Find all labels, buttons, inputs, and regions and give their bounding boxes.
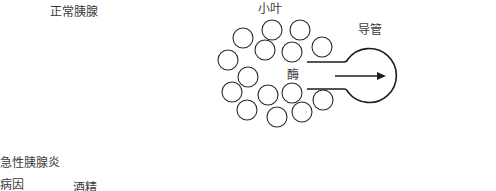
lobule-circle: [258, 85, 278, 105]
lobule-circle: [267, 107, 287, 127]
pancreas-diagram: [0, 0, 496, 191]
arrow-head-icon: [377, 72, 386, 80]
lobule-circle: [282, 42, 302, 62]
lobule-circle: [233, 28, 253, 48]
cause-value: 酒精: [73, 181, 97, 191]
lobule-circle: [218, 50, 238, 70]
duct-label: 导管: [358, 23, 382, 37]
lobule-circle: [237, 100, 257, 120]
acute-pancreatitis-heading: 急性胰腺炎: [0, 156, 60, 170]
lobule-circle: [238, 67, 258, 87]
lobule-circle: [312, 37, 332, 57]
lobule-circle: [290, 20, 310, 40]
lobule-circle: [313, 90, 333, 110]
lobule-circle: [255, 40, 275, 60]
lobule-circle: [282, 83, 302, 103]
lobule-circle: [262, 20, 282, 40]
lobule-circle: [222, 82, 242, 102]
lobule-label: 小叶: [258, 2, 282, 16]
lobule-cluster: [218, 20, 333, 127]
cause-label: 病因: [0, 178, 24, 191]
enzyme-label: 酶: [287, 68, 299, 82]
flow-arrow: [335, 72, 386, 80]
title-normal-pancreas: 正常胰腺: [50, 5, 98, 19]
lobule-circle: [292, 102, 312, 122]
